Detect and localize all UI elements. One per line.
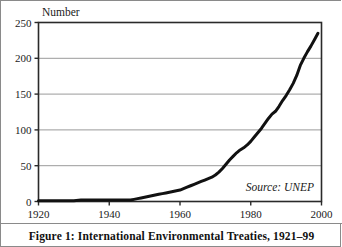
x-tick-label-1960: 1960 <box>169 208 192 220</box>
chart-plot-area: 050100150200250 19201940196019802000 Num… <box>1 1 342 223</box>
y-tick-label-50: 50 <box>21 160 33 172</box>
source-annotation: Source: UNEP <box>246 181 314 193</box>
x-tick-label-1980: 1980 <box>240 208 263 220</box>
line-chart: 050100150200250 19201940196019802000 Num… <box>1 1 342 223</box>
y-tick-label-250: 250 <box>15 17 32 29</box>
figure-caption-bar: Figure 1: International Environmental Tr… <box>1 223 342 247</box>
figure-caption: Figure 1: International Environmental Tr… <box>29 230 315 242</box>
y-axis-title: Number <box>42 6 80 18</box>
x-tick-label-2000: 2000 <box>311 208 334 220</box>
y-tick-label-150: 150 <box>15 88 32 100</box>
y-tick-label-100: 100 <box>15 124 32 136</box>
x-tick-label-1940: 1940 <box>98 208 121 220</box>
y-tick-label-200: 200 <box>15 52 32 64</box>
x-tick-label-1920: 1920 <box>28 208 51 220</box>
y-tick-label-0: 0 <box>26 196 32 208</box>
